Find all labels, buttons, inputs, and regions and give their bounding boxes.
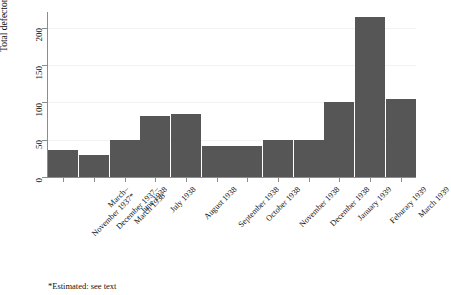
bar	[110, 140, 140, 177]
bar	[386, 99, 416, 177]
x-tick	[94, 178, 95, 182]
y-tick-label: 100	[35, 103, 44, 117]
bar	[79, 155, 109, 177]
chart-footnote: *Estimated: see text	[48, 281, 116, 291]
x-tick	[186, 178, 187, 182]
y-tick-label: 150	[35, 66, 44, 80]
y-axis-title: Total defectors	[0, 0, 9, 52]
bar	[263, 140, 293, 177]
x-tick	[125, 178, 126, 182]
y-tick-label: 0	[35, 178, 44, 183]
bar	[232, 146, 262, 177]
x-tick	[401, 178, 402, 182]
bar	[324, 102, 354, 177]
x-tick	[339, 178, 340, 182]
x-axis-line	[47, 177, 416, 178]
bar	[294, 140, 324, 177]
x-tick	[278, 178, 279, 182]
x-tick-label-line: August 1938	[202, 185, 238, 221]
bar	[48, 150, 78, 177]
x-tick	[217, 178, 218, 182]
bar	[202, 146, 232, 177]
x-tick-label-line: July 1938	[169, 185, 198, 214]
x-tick	[155, 178, 156, 182]
x-tick	[247, 178, 248, 182]
bar	[355, 17, 385, 177]
bar	[140, 116, 170, 177]
y-tick-label: 200	[35, 28, 44, 42]
y-tick-label: 50	[35, 140, 44, 149]
x-tick	[63, 178, 64, 182]
x-tick-label: July 1938	[169, 185, 198, 214]
x-tick	[309, 178, 310, 182]
bar	[171, 114, 201, 177]
x-tick-label: August 1938	[202, 185, 238, 221]
x-tick	[370, 178, 371, 182]
bar-series	[48, 13, 416, 177]
